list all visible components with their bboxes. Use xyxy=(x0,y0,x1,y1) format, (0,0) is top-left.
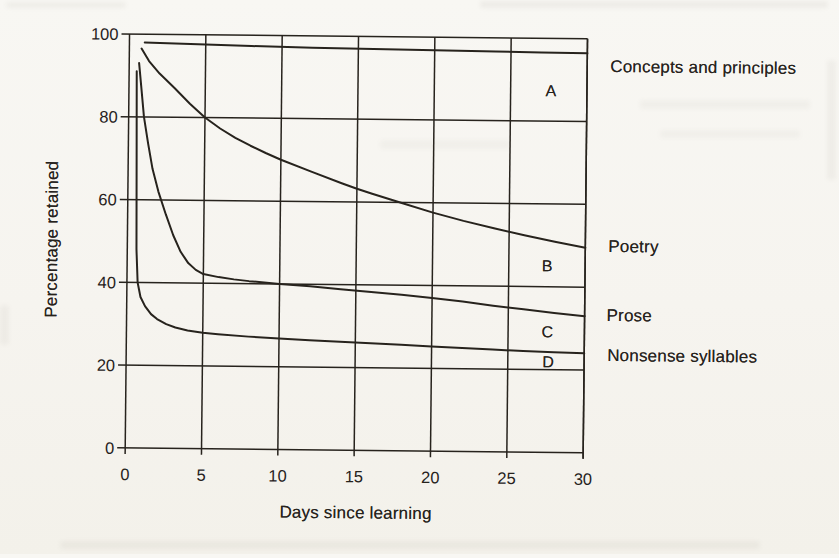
svg-text:20: 20 xyxy=(97,356,116,374)
retention-chart-canvas: 100806040200051015202530 xyxy=(0,0,839,558)
retention-figure: 100806040200051015202530 Percentage reta… xyxy=(0,0,839,558)
svg-text:30: 30 xyxy=(574,470,593,488)
svg-text:100: 100 xyxy=(91,25,119,43)
svg-text:40: 40 xyxy=(97,273,116,291)
curve-letter-b: B xyxy=(542,257,553,275)
svg-text:25: 25 xyxy=(497,469,516,487)
series-label-poetry: Poetry xyxy=(608,237,659,258)
curve-a xyxy=(145,42,588,53)
svg-text:20: 20 xyxy=(421,468,440,486)
curve-letter-c: C xyxy=(542,323,554,341)
series-label-nonsense-syllables: Nonsense syllables xyxy=(607,346,757,368)
y-axis-title: Percentage retained xyxy=(42,161,64,318)
curve-letter-d: D xyxy=(542,353,554,371)
grid-layer xyxy=(117,34,587,459)
tick-labels-layer: 100806040200051015202530 xyxy=(86,25,596,488)
curve-layer xyxy=(134,42,588,353)
curve-letter-a: A xyxy=(546,82,557,100)
svg-text:80: 80 xyxy=(99,107,118,125)
svg-text:10: 10 xyxy=(268,466,287,484)
svg-text:0: 0 xyxy=(105,439,114,457)
svg-text:0: 0 xyxy=(120,465,129,483)
svg-text:15: 15 xyxy=(345,467,364,485)
curve-b xyxy=(140,49,588,248)
series-label-prose: Prose xyxy=(606,306,652,326)
svg-text:60: 60 xyxy=(98,190,117,208)
x-axis-title: Days since learning xyxy=(279,503,431,525)
series-label-concepts-and-principles: Concepts and principles xyxy=(610,57,796,79)
svg-text:5: 5 xyxy=(197,466,206,484)
